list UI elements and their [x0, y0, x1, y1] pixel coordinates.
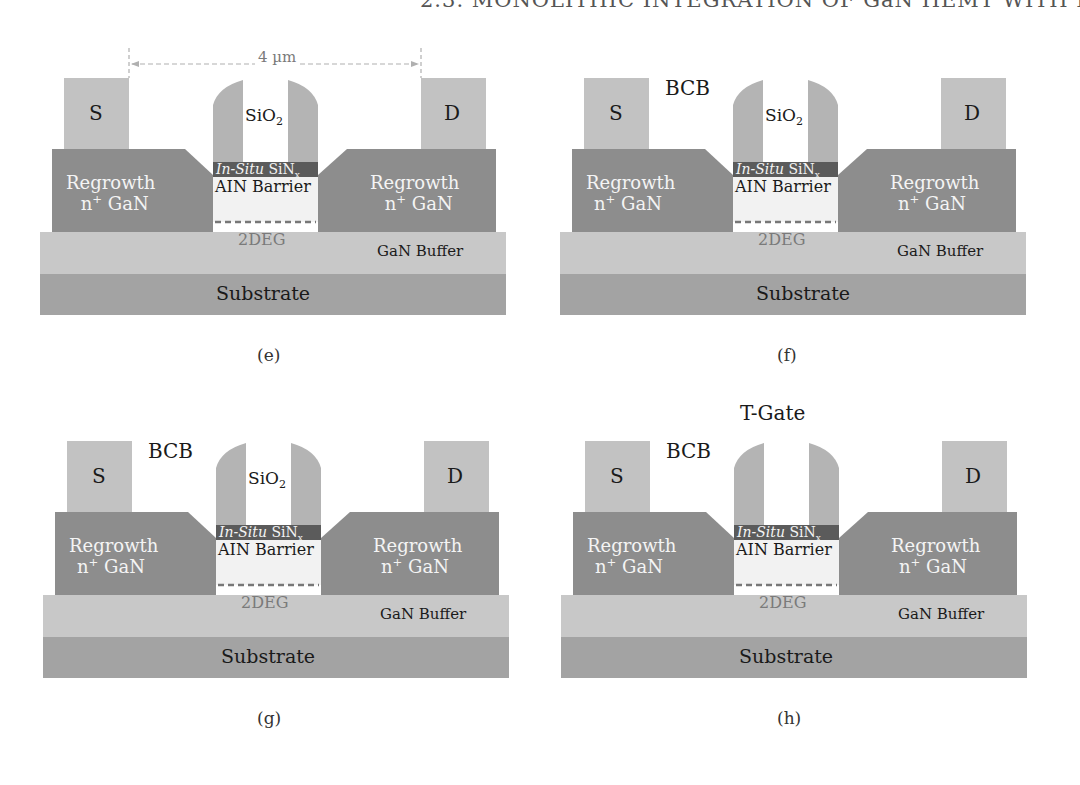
tgate-label: T-Gate: [740, 403, 805, 423]
drain-label: D: [965, 466, 981, 486]
substrate-label: Substrate: [221, 647, 315, 666]
panel-f: BCB S D SiO2 In-Situ SiNx AIN Barrier 2D…: [520, 40, 1040, 340]
left-spacer: [216, 443, 246, 525]
panel-h: T-Gate BCB S D In-Situ SiNx AIN Barrier …: [521, 403, 1041, 703]
2deg-label: 2DEG: [758, 232, 805, 248]
left-regrowth-label: Regrowthn+ GaN: [586, 174, 675, 214]
buffer-label: GaN Buffer: [380, 607, 466, 622]
buffer-label: GaN Buffer: [897, 244, 983, 259]
source-label: S: [610, 466, 624, 486]
source-label: S: [92, 466, 106, 486]
right-spacer: [809, 443, 839, 525]
right-regrowth-label: Regrowthn+ GaN: [373, 537, 462, 577]
panel-e: 4 µm S D SiO2 In-Situ SiNx AIN Barrier 2…: [0, 40, 520, 340]
bcb-label: BCB: [665, 78, 710, 98]
bcb-label: BCB: [148, 441, 193, 461]
2deg-label: 2DEG: [238, 232, 285, 248]
right-regrowth-label: Regrowthn+ GaN: [890, 174, 979, 214]
panel-caption: (g): [257, 708, 281, 728]
barrier-label: AIN Barrier: [218, 542, 314, 558]
2deg-label: 2DEG: [759, 595, 806, 611]
left-regrowth-label: Regrowthn+ GaN: [66, 174, 155, 214]
right-spacer: [291, 443, 321, 525]
source-label: S: [89, 103, 103, 123]
barrier-label: AIN Barrier: [735, 179, 831, 195]
substrate-label: Substrate: [216, 284, 310, 303]
right-spacer: [288, 80, 318, 162]
panel-caption: (f): [777, 345, 797, 365]
right-regrowth-label: Regrowthn+ GaN: [891, 537, 980, 577]
panel-g: BCB S D SiO2 In-Situ SiNx AIN Barrier 2D…: [3, 403, 523, 703]
buffer-label: GaN Buffer: [377, 244, 463, 259]
left-spacer: [733, 80, 763, 162]
dimension-arrow-left: [131, 61, 139, 67]
drain-label: D: [444, 103, 460, 123]
right-regrowth-label: Regrowthn+ GaN: [370, 174, 459, 214]
bcb-label: BCB: [666, 441, 711, 461]
left-spacer: [734, 443, 764, 525]
drain-label: D: [447, 466, 463, 486]
panel-caption: (e): [257, 345, 280, 365]
sio2-label: SiO2: [245, 107, 283, 127]
drain-label: D: [964, 103, 980, 123]
right-spacer: [808, 80, 838, 162]
buffer-label: GaN Buffer: [898, 607, 984, 622]
sio2-label: SiO2: [765, 107, 803, 127]
barrier-label: AIN Barrier: [736, 542, 832, 558]
panel-caption: (h): [777, 708, 801, 728]
dimension-arrow-right: [411, 61, 419, 67]
left-regrowth-label: Regrowthn+ GaN: [587, 537, 676, 577]
substrate-label: Substrate: [756, 284, 850, 303]
source-label: S: [609, 103, 623, 123]
dimension-label: 4 µm: [255, 50, 299, 65]
barrier-label: AIN Barrier: [215, 179, 311, 195]
left-regrowth-label: Regrowthn+ GaN: [69, 537, 158, 577]
2deg-label: 2DEG: [241, 595, 288, 611]
running-head: 2.3. MONOLITHIC INTEGRATION OF GaN HEMT …: [420, 0, 1080, 12]
sio2-label: SiO2: [248, 470, 286, 490]
substrate-label: Substrate: [739, 647, 833, 666]
left-spacer: [213, 80, 243, 162]
